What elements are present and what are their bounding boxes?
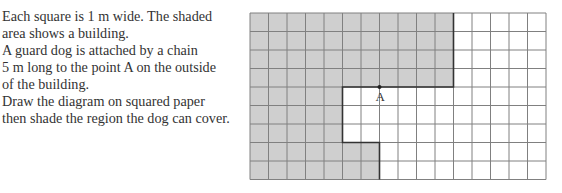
building-shaded-row <box>250 87 343 106</box>
building-shaded-row <box>250 50 454 69</box>
grid-diagram: A <box>249 12 549 188</box>
question-text: Each square is 1 m wide. The shaded area… <box>2 8 237 127</box>
building-shaded-row <box>250 69 454 88</box>
question-line-6: Draw the diagram on squared paper <box>2 93 237 110</box>
question-line-4: 5 m long to the point A on the outside <box>2 59 237 76</box>
point-a-label: A <box>376 89 386 104</box>
building-shaded-row <box>250 106 343 125</box>
building-shaded-row <box>250 13 454 32</box>
question-line-3: A guard dog is attached by a chain <box>2 42 237 59</box>
building-shaded-row <box>250 124 343 143</box>
question-line-2: area shows a building. <box>2 25 237 42</box>
building-shaded-row <box>250 32 454 51</box>
building-shaded-row <box>250 161 380 180</box>
building-shaded-row <box>250 143 380 162</box>
question-line-1: Each square is 1 m wide. The shaded <box>2 8 237 25</box>
building-grid-svg: A <box>249 12 549 184</box>
question-line-5: of the building. <box>2 76 237 93</box>
question-line-7: then shade the region the dog can cover. <box>2 110 237 127</box>
